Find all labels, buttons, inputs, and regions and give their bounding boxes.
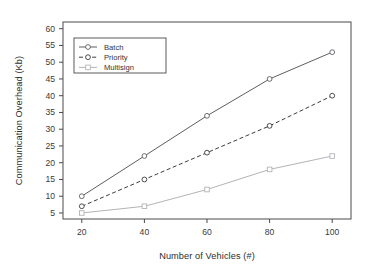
y-tick-label: 30 (45, 124, 55, 134)
legend-label: Multisign (104, 63, 134, 72)
data-point (79, 211, 84, 216)
legend-marker-sample (86, 55, 91, 60)
legend-marker-sample (86, 65, 91, 70)
data-point (267, 77, 272, 82)
x-axis-title: Number of Vehicles (#) (159, 251, 255, 261)
legend-label: Priority (104, 53, 128, 62)
data-point (205, 113, 210, 118)
data-point (267, 123, 272, 128)
data-point (205, 187, 210, 192)
data-series-group (79, 50, 334, 216)
x-tick-label: 20 (77, 227, 87, 237)
y-tick-label: 25 (45, 141, 55, 151)
y-tick-label: 15 (45, 174, 55, 184)
y-tick-label: 5 (50, 208, 55, 218)
data-point (267, 167, 272, 172)
line-chart-svg: 51015202530354045505560 20406080100 Batc… (0, 0, 371, 273)
chart-figure: 51015202530354045505560 20406080100 Batc… (0, 0, 371, 273)
data-point (205, 150, 210, 155)
y-axis-tick-group: 51015202530354045505560 (45, 24, 63, 218)
y-axis-title: Communication Overhead (Kb) (14, 56, 24, 185)
y-tick-label: 40 (45, 91, 55, 101)
y-tick-label: 20 (45, 158, 55, 168)
data-point (79, 194, 84, 199)
data-point (330, 93, 335, 98)
legend-marker-sample (86, 45, 91, 50)
data-point (330, 154, 335, 159)
y-tick-label: 60 (45, 24, 55, 34)
series-line-batch (82, 52, 332, 196)
data-point (79, 204, 84, 209)
x-axis-tick-group: 20406080100 (77, 219, 340, 237)
series-line-multisign (82, 156, 332, 213)
x-tick-label: 100 (325, 227, 340, 237)
legend-label: Batch (104, 43, 123, 52)
data-point (142, 177, 147, 182)
x-tick-label: 80 (265, 227, 275, 237)
y-tick-label: 50 (45, 57, 55, 67)
x-tick-label: 40 (140, 227, 150, 237)
chart-legend: BatchPriorityMultisign (74, 38, 166, 73)
x-tick-label: 60 (202, 227, 212, 237)
y-tick-label: 35 (45, 107, 55, 117)
data-point (142, 154, 147, 159)
series-multisign (79, 154, 334, 216)
y-tick-label: 55 (45, 40, 55, 50)
y-tick-label: 10 (45, 191, 55, 201)
data-point (142, 204, 147, 209)
data-point (330, 50, 335, 55)
y-tick-label: 45 (45, 74, 55, 84)
